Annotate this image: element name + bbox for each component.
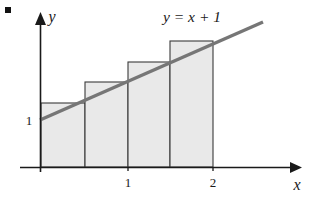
x-tick-label-2: 2 xyxy=(210,175,217,190)
x-axis-arrowhead xyxy=(290,162,302,173)
x-tick-label-1: 1 xyxy=(125,175,132,190)
bullet-marker xyxy=(5,7,11,13)
figure-canvas: y x 1 1 2 y = x + 1 xyxy=(0,0,309,197)
function-equation-label: y = x + 1 xyxy=(161,8,221,25)
riemann-rect-1 xyxy=(41,103,85,167)
riemann-rectangles xyxy=(41,41,213,167)
riemann-rect-2 xyxy=(85,82,128,167)
y-tick-label-1: 1 xyxy=(26,113,33,128)
y-axis-arrowhead xyxy=(35,12,46,25)
x-axis-label: x xyxy=(292,176,300,193)
riemann-sum-figure: y x 1 1 2 y = x + 1 xyxy=(0,0,309,197)
y-axis-label: y xyxy=(46,8,56,26)
